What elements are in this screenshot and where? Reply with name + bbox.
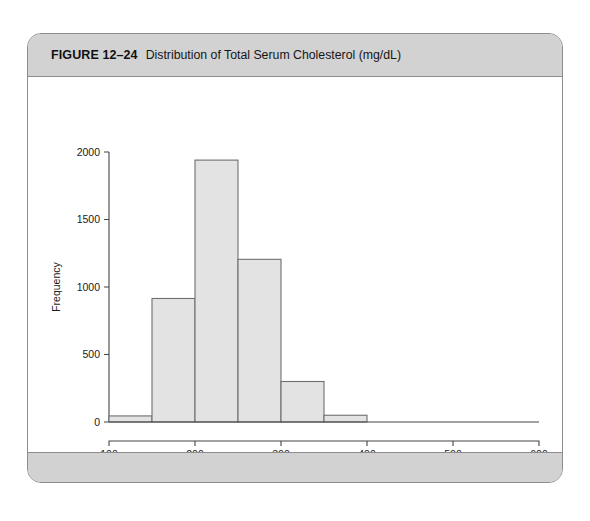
chart-plot-area: 0500100015002000 Frequency 1002003004005… bbox=[28, 77, 562, 452]
y-tick-label: 0 bbox=[94, 416, 100, 428]
histogram-bar bbox=[238, 259, 281, 422]
y-tick-label: 1000 bbox=[77, 281, 101, 293]
y-tick-label: 1500 bbox=[77, 213, 101, 225]
y-tick-label-group: 0500100015002000 bbox=[77, 146, 101, 428]
histogram-chart: 0500100015002000 Frequency 1002003004005… bbox=[28, 77, 563, 454]
figure-caption-title: Distribution of Total Serum Cholesterol … bbox=[146, 48, 401, 62]
histogram-bars-group bbox=[109, 160, 367, 422]
y-axis-title: Frequency bbox=[50, 261, 62, 311]
figure-caption-band: FIGURE 12–24 Distribution of Total Serum… bbox=[28, 34, 562, 77]
y-tick-label: 500 bbox=[82, 348, 100, 360]
histogram-bar bbox=[281, 382, 324, 423]
page-root: { "figure": { "label": "FIGURE 12–24", "… bbox=[0, 0, 590, 521]
figure-footer-band bbox=[28, 452, 562, 482]
y-axis-line bbox=[104, 152, 109, 422]
x-axis-tick-line bbox=[109, 441, 539, 446]
histogram-bar bbox=[109, 416, 152, 422]
histogram-bar bbox=[324, 415, 367, 422]
histogram-bar bbox=[195, 160, 238, 422]
y-axis: 0500100015002000 Frequency bbox=[50, 146, 109, 428]
x-axis: 100200300400500600 Total Serum Cholester… bbox=[100, 422, 548, 454]
figure-card: FIGURE 12–24 Distribution of Total Serum… bbox=[27, 33, 563, 483]
y-tick-label: 2000 bbox=[77, 146, 101, 158]
figure-number-label: FIGURE 12–24 bbox=[51, 48, 138, 62]
histogram-bar bbox=[152, 298, 195, 422]
